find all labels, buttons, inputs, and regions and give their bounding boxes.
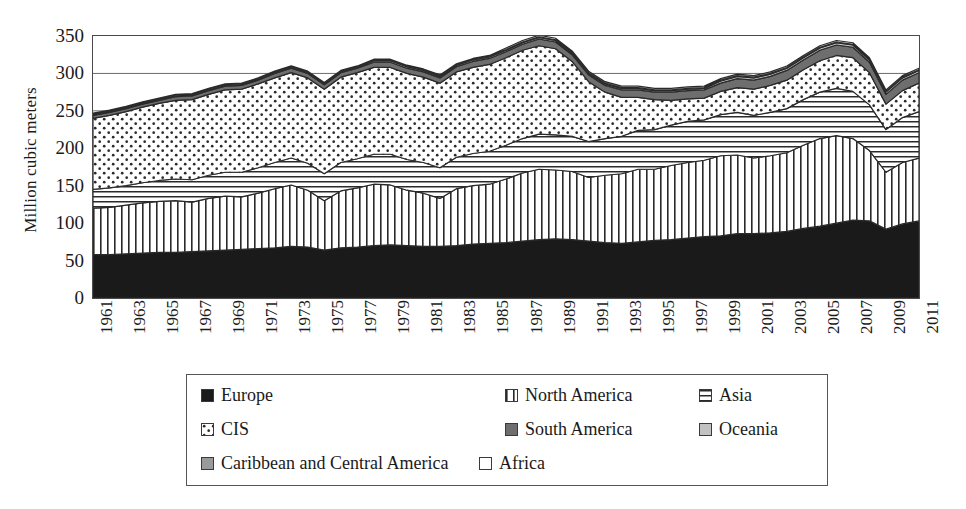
x-tick-label: 1993 (627, 300, 644, 334)
x-tick-label: 1963 (131, 300, 148, 334)
x-tick-label: 2011 (924, 300, 941, 333)
y-axis-tick-labels: 050100150200250300350 (32, 0, 84, 509)
y-tick-label: 50 (38, 250, 84, 269)
chart-figure: Million cubic meters 0501001502002503003… (0, 0, 966, 509)
x-tick-label: 1975 (329, 300, 346, 334)
x-tick-label: 2001 (759, 300, 776, 334)
x-tick-label: 1979 (395, 300, 412, 334)
stacked-area-svg (93, 36, 919, 298)
legend-item-europe[interactable]: Europe (201, 379, 273, 411)
x-tick-label: 1985 (494, 300, 511, 334)
x-tick-label: 2005 (825, 300, 842, 334)
x-tick-label: 1999 (726, 300, 743, 334)
legend-item-south-america[interactable]: South America (505, 413, 632, 445)
legend-swatch-horizontal-lines-icon (699, 389, 712, 402)
x-tick-label: 1973 (296, 300, 313, 334)
chart-legend: EuropeNorth AmericaAsiaCISSouth AmericaO… (186, 374, 828, 486)
legend-swatch-solid-black-icon (201, 389, 214, 402)
y-tick-label: 350 (38, 26, 84, 45)
legend-swatch-solid-mid-gray-icon (201, 457, 214, 470)
legend-swatch-vertical-lines-icon (505, 389, 518, 402)
plot-area (92, 35, 920, 299)
legend-row: Caribbean and Central AmericaAfrica (187, 447, 827, 479)
legend-item-oceania[interactable]: Oceania (699, 413, 778, 445)
y-tick-label: 100 (38, 213, 84, 232)
legend-label: CIS (221, 420, 249, 438)
x-tick-label: 1995 (660, 300, 677, 334)
legend-swatch-empty-white-icon (479, 457, 492, 470)
y-tick-label: 200 (38, 138, 84, 157)
x-tick-label: 1971 (263, 300, 280, 334)
y-tick-label: 150 (38, 175, 84, 194)
x-tick-label: 1981 (428, 300, 445, 334)
legend-label: North America (525, 386, 632, 404)
x-tick-label: 2009 (891, 300, 908, 334)
legend-label: South America (525, 420, 632, 438)
legend-item-africa[interactable]: Africa (479, 447, 545, 479)
legend-label: Europe (221, 386, 273, 404)
x-tick-label: 1983 (461, 300, 478, 334)
legend-label: Oceania (719, 420, 778, 438)
x-tick-label: 1997 (693, 300, 710, 334)
x-tick-label: 1967 (197, 300, 214, 334)
x-tick-label: 1987 (528, 300, 545, 334)
x-tick-label: 1969 (230, 300, 247, 334)
legend-swatch-solid-light-gray-icon (699, 423, 712, 436)
legend-swatch-dots-icon (201, 423, 214, 436)
legend-row: CISSouth AmericaOceania (187, 413, 827, 445)
y-tick-label: 0 (38, 288, 84, 307)
x-tick-label: 2003 (792, 300, 809, 334)
legend-row: EuropeNorth AmericaAsia (187, 379, 827, 411)
x-tick-label: 1965 (164, 300, 181, 334)
legend-swatch-solid-dark-gray-icon (505, 423, 518, 436)
legend-label: Africa (499, 454, 545, 472)
y-tick-label: 300 (38, 63, 84, 82)
x-tick-label: 1991 (594, 300, 611, 334)
x-axis-tick-labels: 1961196319651967196919711973197519771979… (92, 300, 920, 370)
area-series-layer (93, 36, 919, 298)
x-tick-label: 1961 (98, 300, 115, 334)
x-tick-label: 1989 (561, 300, 578, 334)
legend-item-north-america[interactable]: North America (505, 379, 632, 411)
legend-label: Asia (719, 386, 752, 404)
y-tick-label: 250 (38, 100, 84, 119)
x-tick-label: 2007 (858, 300, 875, 334)
x-tick-label: 1977 (362, 300, 379, 334)
legend-item-caribbean-and-central-america[interactable]: Caribbean and Central America (201, 447, 448, 479)
legend-label: Caribbean and Central America (221, 454, 448, 472)
legend-item-asia[interactable]: Asia (699, 379, 752, 411)
legend-item-cis[interactable]: CIS (201, 413, 249, 445)
